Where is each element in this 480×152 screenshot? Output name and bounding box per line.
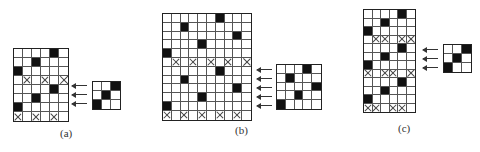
cross-icon <box>163 111 172 120</box>
empty-cell <box>398 87 407 96</box>
empty-cell <box>172 49 181 58</box>
arrow-icon <box>423 49 438 50</box>
empty-cell <box>390 10 399 19</box>
empty-cell <box>172 102 181 111</box>
empty-cell <box>93 82 102 91</box>
empty-cell <box>453 63 462 72</box>
cross-icon <box>225 58 234 67</box>
filled-cell <box>364 95 373 104</box>
empty-cell <box>189 102 198 111</box>
filled-cell <box>303 65 312 74</box>
empty-cell <box>181 49 190 58</box>
empty-cell <box>102 100 111 109</box>
empty-cell <box>381 78 390 87</box>
cross-icon <box>398 104 407 113</box>
empty-cell <box>41 58 50 67</box>
large-grid-b <box>162 13 252 121</box>
filled-cell <box>364 27 373 36</box>
empty-cell <box>207 32 216 41</box>
empty-cell <box>189 32 198 41</box>
empty-cell <box>181 40 190 49</box>
empty-cell <box>189 84 198 93</box>
empty-cell <box>216 76 225 85</box>
empty-cell <box>189 14 198 23</box>
empty-cell <box>59 58 68 67</box>
empty-cell <box>225 84 234 93</box>
empty-cell <box>198 102 207 111</box>
empty-cell <box>407 104 416 113</box>
empty-cell <box>23 67 32 76</box>
filled-cell <box>398 78 407 87</box>
empty-cell <box>286 100 295 109</box>
arrow-icon <box>257 105 272 106</box>
empty-cell <box>407 19 416 28</box>
empty-cell <box>398 70 407 79</box>
cross-icon <box>381 36 390 45</box>
cross-icon <box>407 36 416 45</box>
cross-icon <box>407 70 416 79</box>
empty-cell <box>198 58 207 67</box>
empty-cell <box>181 84 190 93</box>
empty-cell <box>189 23 198 32</box>
empty-cell <box>50 76 59 85</box>
large-grid-c <box>363 9 416 113</box>
empty-cell <box>277 74 286 83</box>
empty-cell <box>198 49 207 58</box>
empty-cell <box>233 58 242 67</box>
filled-cell <box>295 91 304 100</box>
filled-cell <box>381 87 390 96</box>
filled-cell <box>216 67 225 76</box>
empty-cell <box>373 44 382 53</box>
empty-cell <box>390 78 399 87</box>
empty-cell <box>225 67 234 76</box>
empty-cell <box>189 49 198 58</box>
empty-cell <box>295 100 304 109</box>
empty-cell <box>172 93 181 102</box>
empty-cell <box>163 58 172 67</box>
empty-cell <box>172 14 181 23</box>
empty-cell <box>242 67 251 76</box>
filled-cell <box>181 76 190 85</box>
empty-cell <box>41 112 50 121</box>
empty-cell <box>286 65 295 74</box>
empty-cell <box>198 14 207 23</box>
filled-cell <box>444 63 453 72</box>
empty-cell <box>181 58 190 67</box>
empty-cell <box>398 19 407 28</box>
filled-cell <box>453 54 462 63</box>
empty-cell <box>111 100 120 109</box>
empty-cell <box>59 85 68 94</box>
empty-cell <box>398 27 407 36</box>
empty-cell <box>390 87 399 96</box>
empty-cell <box>172 23 181 32</box>
empty-cell <box>225 14 234 23</box>
empty-cell <box>163 32 172 41</box>
arrow-icon <box>257 78 272 79</box>
empty-cell <box>312 100 321 109</box>
empty-cell <box>216 40 225 49</box>
empty-cell <box>189 40 198 49</box>
empty-cell <box>23 112 32 121</box>
empty-cell <box>207 40 216 49</box>
empty-cell <box>242 40 251 49</box>
filled-cell <box>216 14 225 23</box>
empty-cell <box>233 76 242 85</box>
empty-cell <box>373 87 382 96</box>
empty-cell <box>242 23 251 32</box>
empty-cell <box>381 104 390 113</box>
filled-cell <box>462 45 471 54</box>
empty-cell <box>373 53 382 62</box>
empty-cell <box>41 49 50 58</box>
filled-cell <box>32 58 41 67</box>
empty-cell <box>172 40 181 49</box>
small-grid-c <box>443 44 472 73</box>
empty-cell <box>233 23 242 32</box>
empty-cell <box>364 36 373 45</box>
empty-cell <box>50 103 59 112</box>
empty-cell <box>277 65 286 74</box>
empty-cell <box>233 14 242 23</box>
empty-cell <box>207 76 216 85</box>
arrow-icon <box>72 85 87 86</box>
empty-cell <box>390 36 399 45</box>
cross-icon <box>390 70 399 79</box>
